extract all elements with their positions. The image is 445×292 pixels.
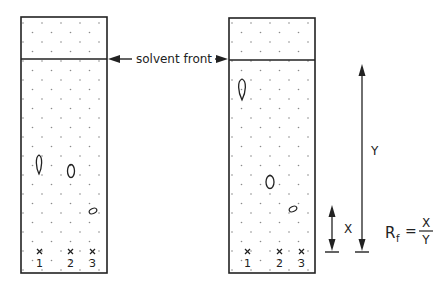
x-arrow-up-icon <box>329 205 336 217</box>
solvent-front-label: solvent front <box>136 52 212 66</box>
right-arrowhead-icon <box>216 55 228 63</box>
right-lane-label-2: 2 <box>276 257 283 270</box>
x-distance-arrow: X <box>325 205 352 252</box>
right-lane-label-1: 1 <box>244 257 251 270</box>
right-plate-border <box>229 18 315 273</box>
left-plate: 1 2 3 <box>21 17 107 273</box>
left-lane-label-3: 3 <box>89 257 96 270</box>
rf-denominator: Y <box>421 233 430 247</box>
x-distance-label: X <box>344 222 352 236</box>
right-lane-label-3: 3 <box>298 257 305 270</box>
right-plate: 1 2 3 <box>229 18 315 273</box>
left-plate-border <box>21 17 107 273</box>
rf-numerator: X <box>422 216 430 230</box>
x-arrow-down-icon <box>329 239 336 251</box>
left-lane-label-1: 1 <box>36 257 43 270</box>
rf-formula: R f = X Y <box>385 216 433 247</box>
left-lane-label-2: 2 <box>67 257 74 270</box>
solvent-front-callout: solvent front <box>108 52 228 66</box>
left-arrowhead-icon <box>108 55 120 63</box>
y-arrow-up-icon <box>359 64 366 76</box>
tlc-diagram: 1 2 3 solvent front 1 2 3 X <box>0 0 445 292</box>
rf-symbol-subscript-f: f <box>396 233 400 244</box>
y-arrow-down-icon <box>359 239 366 251</box>
y-distance-arrow: Y <box>355 64 379 252</box>
rf-equals: = <box>405 223 417 239</box>
y-distance-label: Y <box>370 144 379 158</box>
rf-symbol-r: R <box>385 224 395 242</box>
